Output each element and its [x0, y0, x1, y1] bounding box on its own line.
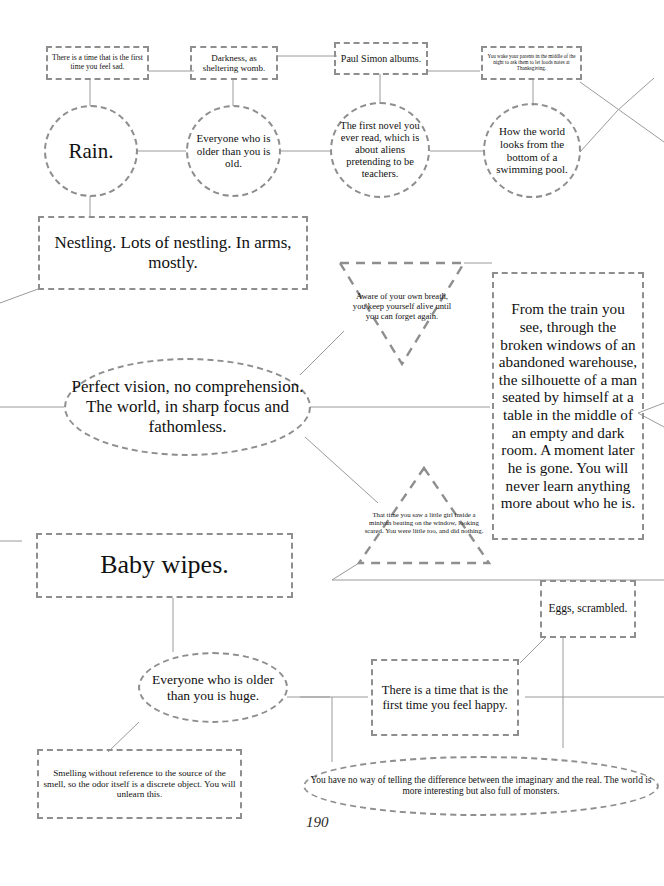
node-time-feel-happy-label: There is a time that is the first time y… [373, 683, 517, 712]
diagram-page: There is a time that is the first time y… [0, 0, 664, 886]
node-aware-of-breath-label: Aware of your own breath, you keep yours… [352, 292, 452, 321]
node-minivan-girl[interactable]: That time you saw a little girl inside a… [362, 485, 486, 561]
node-baby-wipes-label: Baby wipes. [38, 550, 291, 580]
node-wake-parents-label: You wake your parents in the middle of t… [483, 54, 580, 72]
node-paul-simon[interactable]: Paul Simon albums. [334, 42, 428, 75]
page-number: 190 [306, 814, 329, 831]
node-everyone-older-huge[interactable]: Everyone who is older than you is huge. [138, 652, 288, 723]
node-time-feel-sad[interactable]: There is a time that is the first time y… [46, 46, 149, 80]
node-perfect-vision-label: Perfect vision, no comprehension. The wo… [66, 377, 309, 436]
edge-wakeparents-diagonal-right [580, 82, 664, 142]
node-from-the-train[interactable]: From the train you see, through the brok… [492, 272, 644, 540]
node-rain-label: Rain. [46, 139, 136, 163]
node-paul-simon-label: Paul Simon albums. [336, 53, 426, 65]
node-aware-of-breath[interactable]: Aware of your own breath, you keep yours… [352, 266, 452, 348]
edge-perfect-vision-to-aware [300, 331, 344, 375]
node-bottom-of-pool[interactable]: How the world looks from the bottom of a… [483, 103, 581, 198]
node-from-the-train-label: From the train you see, through the brok… [494, 300, 642, 512]
node-everyone-older-huge-label: Everyone who is older than you is huge. [140, 672, 286, 703]
node-everyone-older-old-label: Everyone who is older than you is old. [188, 132, 279, 170]
node-imaginary-and-real-label: You have no way of telling the differenc… [305, 775, 657, 797]
edge-eggs-to-happy [520, 638, 545, 663]
node-time-feel-sad-label: There is a time that is the first time y… [48, 54, 147, 72]
node-baby-wipes[interactable]: Baby wipes. [36, 533, 293, 598]
edge-nestling-to-left-margin [0, 289, 38, 303]
edge-minivan-to-bottom-band [332, 563, 359, 580]
edge-everyone-huge-to-smelling [108, 722, 139, 752]
node-first-novel[interactable]: The first novel you ever read, which is … [330, 102, 430, 198]
node-bottom-of-pool-label: How the world looks from the bottom of a… [485, 125, 579, 176]
node-eggs-scrambled-label: Eggs, scrambled. [542, 602, 634, 615]
node-darkness-womb[interactable]: Darkness, as sheltering womb. [190, 46, 278, 80]
node-time-feel-happy[interactable]: There is a time that is the first time y… [371, 659, 519, 736]
edge-corner-diagonal-up [618, 78, 654, 110]
node-smelling-without-reference[interactable]: Smelling without reference to the source… [37, 749, 242, 819]
node-perfect-vision[interactable]: Perfect vision, no comprehension. The wo… [64, 358, 311, 456]
edge-pool-diagonal-right [580, 110, 618, 152]
node-imaginary-and-real[interactable]: You have no way of telling the differenc… [303, 756, 659, 816]
node-nestling-label: Nestling. Lots of nestling. In arms, mos… [40, 233, 306, 272]
node-eggs-scrambled[interactable]: Eggs, scrambled. [540, 580, 636, 638]
node-smelling-without-reference-label: Smelling without reference to the source… [39, 768, 240, 800]
node-first-novel-label: The first novel you ever read, which is … [332, 120, 428, 180]
edge-aware-stub [330, 331, 344, 345]
node-everyone-older-old[interactable]: Everyone who is older than you is old. [186, 105, 281, 197]
node-darkness-womb-label: Darkness, as sheltering womb. [192, 53, 276, 74]
node-nestling[interactable]: Nestling. Lots of nestling. In arms, mos… [38, 216, 308, 290]
node-minivan-girl-label: That time you saw a little girl inside a… [362, 511, 486, 534]
node-rain[interactable]: Rain. [44, 105, 138, 197]
node-wake-parents[interactable]: You wake your parents in the middle of t… [481, 46, 582, 80]
